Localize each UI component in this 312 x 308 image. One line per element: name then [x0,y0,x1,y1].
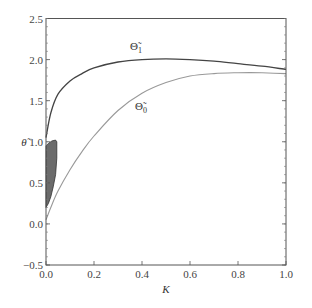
curves [46,59,286,220]
curve-theta1 [46,59,286,138]
y-tick-label: 1.5 [29,95,43,107]
y-tick-label: 2.5 [29,13,43,25]
chart: −0.50.00.51.01.52.02.5 0.00.20.40.60.81.… [0,0,312,308]
y-axis-ticks: −0.50.00.51.01.52.02.5 [23,13,286,272]
plot-frame [46,19,286,266]
curve-label-theta1: Θ̃1 [130,40,142,55]
curve-theta0 [46,73,286,220]
x-tick-label: 0.8 [231,268,245,280]
y-tick-label: 0.5 [29,177,43,189]
curve-labels: Θ̃1Θ̃0 [130,40,147,115]
x-tick-label: 0.0 [39,268,53,280]
x-tick-label: 0.6 [183,268,197,280]
y-tick-label: 2.0 [29,54,43,66]
curve-label-theta0: Θ̃0 [135,100,147,115]
x-tick-label: 1.0 [279,268,293,280]
x-tick-label: 0.2 [87,268,101,280]
x-axis-ticks: 0.00.20.40.60.81.0 [39,261,293,280]
y-tick-label: 1.0 [29,136,43,148]
x-tick-label: 0.4 [135,268,149,280]
x-axis-label: K [161,283,170,295]
y-tick-label: 0.0 [29,218,43,230]
